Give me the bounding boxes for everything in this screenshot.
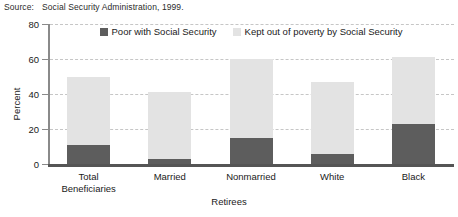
x-tick-label: Married — [129, 171, 210, 183]
y-tick-mark — [42, 59, 48, 60]
legend-label: Poor with Social Security — [112, 26, 217, 37]
x-tick-label-line: Beneficiaries — [48, 183, 129, 195]
x-axis-title: Retirees — [0, 196, 458, 207]
x-tick-label-line: Nonmarried — [210, 171, 291, 183]
bar — [392, 57, 435, 164]
y-tick-mark — [42, 94, 48, 95]
bar-segment-poor-with-social-security — [67, 145, 110, 164]
bar-segment-poor-with-social-security — [392, 124, 435, 164]
stacked-bar-chart: Percent 020406080 TotalBeneficiariesMarr… — [0, 16, 458, 217]
bar — [67, 77, 110, 165]
bar — [230, 59, 273, 164]
gridline — [50, 24, 454, 25]
source-note: Source:Social Security Administration, 1… — [4, 2, 184, 12]
bar — [311, 82, 354, 164]
legend-swatch — [100, 28, 108, 36]
x-tick-label-line: Total — [48, 171, 129, 183]
bar-segment-kept-out-of-poverty — [148, 92, 191, 159]
bar-segment-poor-with-social-security — [230, 138, 273, 164]
y-tick-label: 20 — [28, 124, 39, 135]
x-tick-label: Nonmarried — [210, 171, 291, 183]
legend-item: Kept out of poverty by Social Security — [233, 26, 403, 37]
y-tick-mark — [42, 129, 48, 130]
bar-segment-kept-out-of-poverty — [230, 59, 273, 138]
source-label: Source: — [4, 2, 34, 12]
bar-segment-kept-out-of-poverty — [311, 82, 354, 154]
y-tick-mark — [42, 24, 48, 25]
y-tick-label: 60 — [28, 54, 39, 65]
plot-area: 020406080 TotalBeneficiariesMarriedNonma… — [48, 24, 454, 164]
bar-segment-kept-out-of-poverty — [392, 57, 435, 124]
x-tick-label-line: White — [292, 171, 373, 183]
y-tick-label: 0 — [34, 159, 39, 170]
y-axis-title: Percent — [0, 96, 46, 112]
legend-swatch — [233, 28, 241, 36]
x-tick-label: White — [292, 171, 373, 183]
x-tick-label: Black — [373, 171, 454, 183]
bar — [148, 92, 191, 164]
legend-item: Poor with Social Security — [100, 26, 217, 37]
bar-segment-poor-with-social-security — [311, 154, 354, 165]
x-tick-label-line: Black — [373, 171, 454, 183]
x-axis-line — [48, 164, 454, 167]
chart-legend: Poor with Social SecurityKept out of pov… — [48, 26, 454, 37]
x-tick-label-line: Married — [129, 171, 210, 183]
y-tick-label: 40 — [28, 89, 39, 100]
bar-segment-kept-out-of-poverty — [67, 77, 110, 145]
y-tick-mark — [42, 164, 48, 165]
source-text: Social Security Administration, 1999. — [42, 2, 184, 12]
y-tick-label: 80 — [28, 19, 39, 30]
bar-segment-poor-with-social-security — [148, 159, 191, 164]
x-tick-label: TotalBeneficiaries — [48, 171, 129, 194]
legend-label: Kept out of poverty by Social Security — [245, 26, 403, 37]
